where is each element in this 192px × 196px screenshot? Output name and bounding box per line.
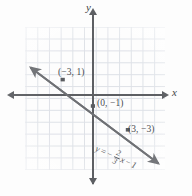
point-marker-b [91,104,95,108]
plotted-line-layer [0,0,192,196]
point-marker-a [61,78,65,82]
graph-figure: x y (−3, 1) (0, −1) (3, −3) y = − 2 3 x … [0,0,192,196]
point-label-neg3-1: (−3, 1) [58,67,85,77]
equation-denominator: 3 [111,156,120,166]
point-label-0-neg1: (0, −1) [97,98,124,108]
point-label-3-neg3: (3, −3) [128,124,155,134]
